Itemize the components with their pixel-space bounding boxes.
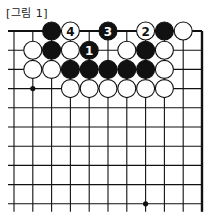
white-stone [174, 22, 192, 40]
white-stone [61, 80, 79, 98]
white-stone [80, 80, 98, 98]
black-stone [137, 41, 155, 59]
black-stone [137, 60, 155, 78]
move-number: 3 [104, 25, 112, 39]
white-stone [43, 60, 61, 78]
move-number: 4 [66, 25, 74, 39]
white-stone [155, 41, 173, 59]
white-stone [24, 60, 42, 78]
black-stone [43, 22, 61, 40]
black-stone [118, 60, 136, 78]
star-point [30, 86, 35, 91]
star-point [143, 201, 148, 206]
white-stone [118, 80, 136, 98]
black-stone [99, 60, 117, 78]
black-stone [61, 60, 79, 78]
white-stone [155, 60, 173, 78]
black-stone [80, 60, 98, 78]
white-stone [99, 80, 117, 98]
white-stone [155, 80, 173, 98]
move-number: 1 [85, 44, 93, 58]
white-stone [24, 41, 42, 59]
white-stone [137, 80, 155, 98]
go-board: 4321 [0, 0, 209, 219]
white-stone [61, 41, 79, 59]
black-stone [155, 22, 173, 40]
white-stone [118, 41, 136, 59]
black-stone [43, 41, 61, 59]
move-number: 2 [141, 25, 149, 39]
